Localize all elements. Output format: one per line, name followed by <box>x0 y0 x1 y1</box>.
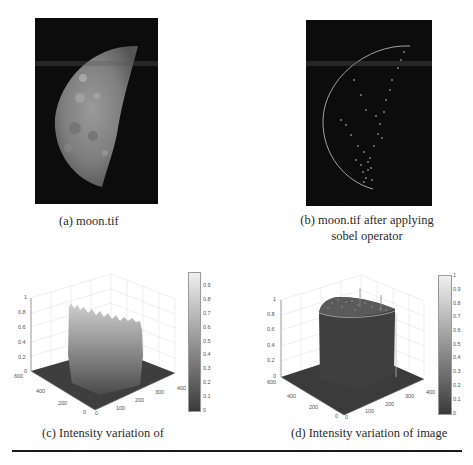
c-cb-tick-0.7: 0.7 <box>203 310 211 316</box>
c-z-tick-0.4: 0.4 <box>18 339 26 345</box>
bottom-rule <box>12 450 462 452</box>
d-y-tick-200: 200 <box>309 404 318 410</box>
d-cb-tick-1: 1 <box>453 272 456 278</box>
d-cb-tick-0.9: 0.9 <box>453 286 461 292</box>
c-cb-tick-0.9: 0.9 <box>203 282 211 288</box>
surface-plot-c: 1 0.8 0.6 0.4 0.2 0 600 400 200 0 0 100 … <box>0 255 240 420</box>
c-cb-tick-0: 0 <box>203 407 206 413</box>
c-x-tick-400: 400 <box>177 385 186 391</box>
surface-plot-d: 1 0.8 0.6 0.4 0.2 0 600 400 200 0 0 100 … <box>240 255 473 420</box>
c-x-tick-300: 300 <box>155 389 164 395</box>
c-cb-tick-0.2: 0.2 <box>203 379 211 385</box>
c-cb-tick-0.6: 0.6 <box>203 324 211 330</box>
d-y-tick-400: 400 <box>287 393 296 399</box>
caption-b-line2: sobel operator <box>292 228 442 244</box>
d-x-tick-100: 100 <box>365 408 374 414</box>
c-y-tick-0: 0 <box>83 409 86 415</box>
d-x-tick-300: 300 <box>405 393 414 399</box>
d-cb-tick-0: 0 <box>453 410 456 416</box>
caption-c: (c) Intensity variation of <box>42 426 164 441</box>
d-cb-tick-0.1: 0.1 <box>453 396 461 402</box>
c-z-tick-0.6: 0.6 <box>18 324 26 330</box>
d-z-tick-1: 1 <box>273 296 276 302</box>
c-z-tick-0.8: 0.8 <box>18 309 26 315</box>
caption-b: (b) moon.tif after applying sobel operat… <box>292 212 442 244</box>
colorbar-c <box>188 272 201 412</box>
c-y-tick-400: 400 <box>36 388 45 394</box>
c-x-tick-100: 100 <box>116 405 125 411</box>
c-x-tick-200: 200 <box>135 397 144 403</box>
d-x-tick-200: 200 <box>385 401 394 407</box>
caption-a: (a) moon.tif <box>59 214 119 229</box>
sobel-image <box>306 20 432 206</box>
c-cb-tick-0.8: 0.8 <box>203 296 211 302</box>
c-y-tick-600: 600 <box>14 373 23 379</box>
d-cb-tick-0.4: 0.4 <box>453 354 461 360</box>
d-cb-tick-0.8: 0.8 <box>453 300 461 306</box>
c-cb-tick-0.1: 0.1 <box>203 393 211 399</box>
d-z-tick-0.8: 0.8 <box>267 311 275 317</box>
c-cb-tick-0.4: 0.4 <box>203 351 211 357</box>
caption-d: (d) Intensity variation of image <box>291 426 447 441</box>
c-x-tick-0: 0 <box>95 410 98 416</box>
d-cb-tick-0.6: 0.6 <box>453 327 461 333</box>
caption-b-line1: (b) moon.tif after applying <box>292 212 442 228</box>
d-z-tick-0.4: 0.4 <box>267 342 275 348</box>
c-y-tick-200: 200 <box>58 400 67 406</box>
d-y-tick-0: 0 <box>335 413 338 419</box>
colorbar-d <box>438 275 452 415</box>
d-x-tick-400: 400 <box>426 389 435 395</box>
d-x-tick-0: 0 <box>345 414 348 420</box>
c-z-tick-1: 1 <box>24 294 27 300</box>
c-cb-tick-0.5: 0.5 <box>203 338 211 344</box>
d-z-tick-0.2: 0.2 <box>267 357 275 363</box>
c-cb-tick-0.3: 0.3 <box>203 365 211 371</box>
moon-illustration <box>35 18 158 204</box>
d-cb-tick-0.3: 0.3 <box>453 368 461 374</box>
d-cb-tick-0.5: 0.5 <box>453 341 461 347</box>
c-z-tick-0.2: 0.2 <box>18 354 26 360</box>
edge-illustration <box>306 20 432 206</box>
moon-image <box>35 18 158 204</box>
d-y-tick-600: 600 <box>267 379 276 385</box>
d-cb-tick-0.7: 0.7 <box>453 313 461 319</box>
d-z-tick-0.6: 0.6 <box>267 326 275 332</box>
d-cb-tick-0.2: 0.2 <box>453 382 461 388</box>
c-z-tick-0: 0 <box>24 368 27 374</box>
